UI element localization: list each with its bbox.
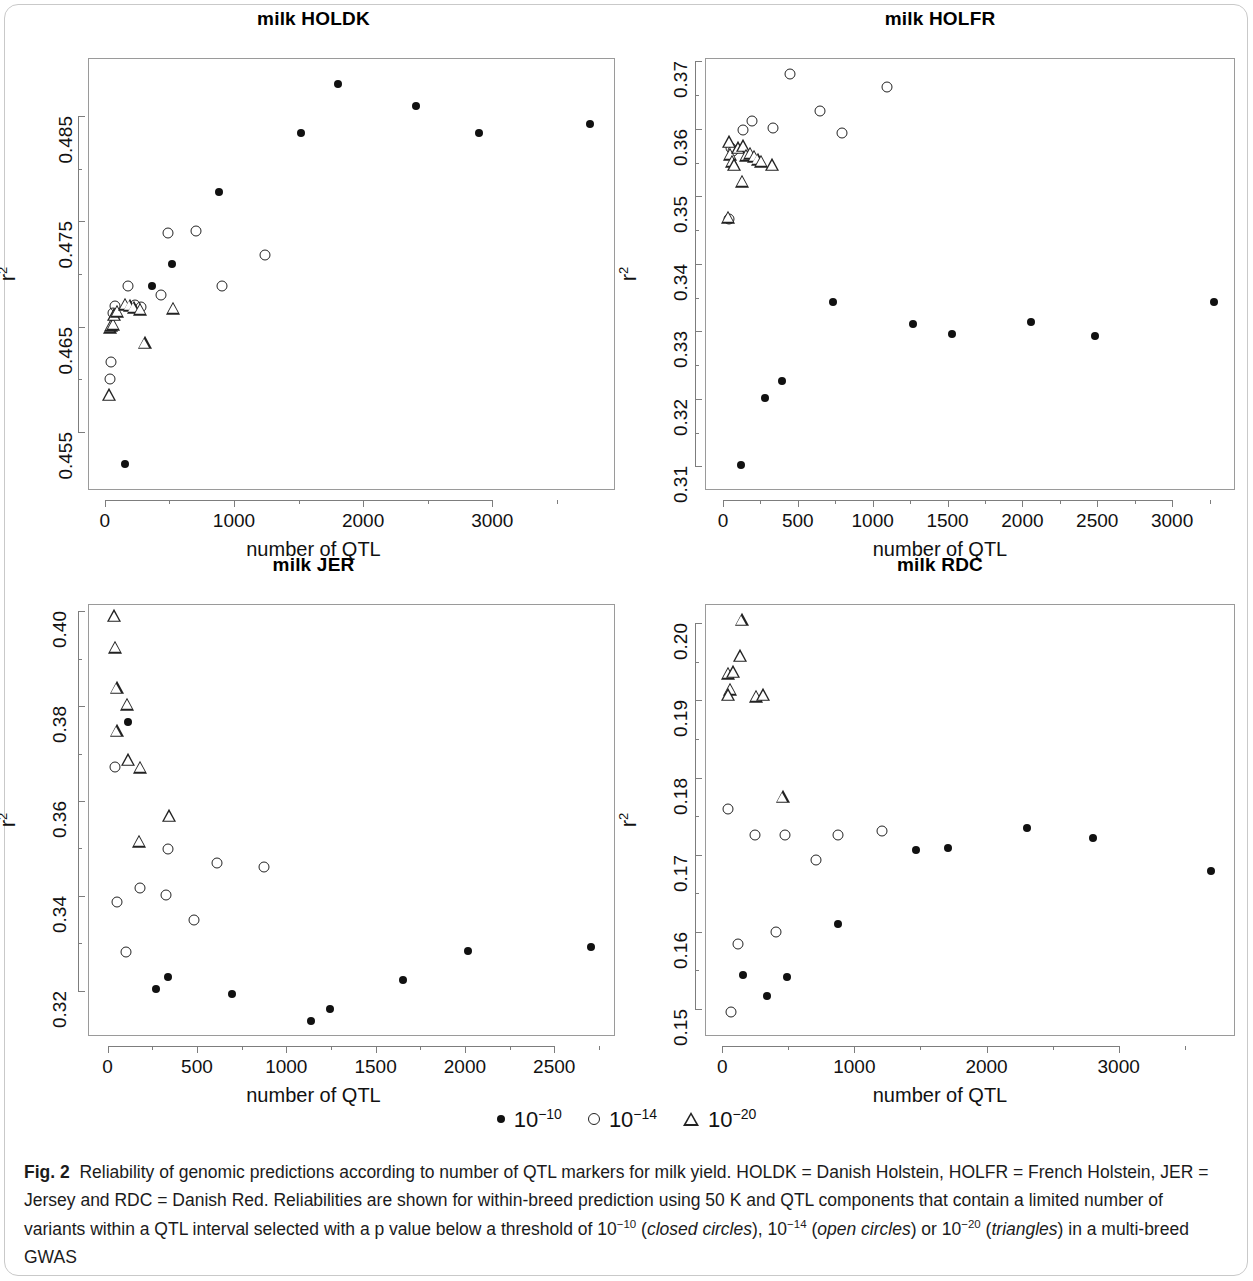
legend-symbol-closed-circle-icon <box>497 1115 505 1123</box>
data-point-jer-closed-circle-8 <box>587 943 595 951</box>
y-tick-holdk-2 <box>78 221 85 222</box>
data-point-holfr-triangle-10 <box>751 152 765 165</box>
figure-caption: Fig. 2 Reliability of genomic prediction… <box>24 1158 1228 1271</box>
x-minor-tick-rdc-0 <box>788 1046 789 1050</box>
y-tick-label-holdk-2: 0.475 <box>55 221 77 269</box>
plot-area-holfr <box>705 58 1235 490</box>
y-minor-tick-rdc-2 <box>695 816 699 817</box>
x-minor-tick-holdk-0 <box>169 500 170 504</box>
data-point-holfr-triangle-13 <box>765 158 779 171</box>
data-point-holdk-triangle-6 <box>118 297 132 310</box>
data-point-holfr-triangle-0 <box>721 210 735 223</box>
x-tick-label-rdc-3: 3000 <box>1098 1056 1140 1078</box>
y-minor-tick-rdc-4 <box>695 662 699 663</box>
x-tick-label-holfr-4: 2000 <box>1001 510 1043 532</box>
data-point-jer-closed-circle-0 <box>124 718 132 726</box>
y-tick-label-jer-0: 0.32 <box>49 991 71 1028</box>
chart-panels-container: milk HOLDK0.4550.4650.4750.4850100020003… <box>0 0 1253 1090</box>
panel-title-holfr: milk HOLFR <box>627 8 1253 30</box>
data-point-holdk-closed-circle-6 <box>412 102 420 110</box>
data-point-jer-open-circle-0 <box>109 761 120 772</box>
x-minor-tick-holdk-3 <box>557 500 558 504</box>
y-tick-holfr-3 <box>695 264 702 265</box>
y-tick-jer-2 <box>78 801 85 802</box>
x-tick-jer-5 <box>554 1046 555 1053</box>
data-point-jer-closed-circle-1 <box>152 985 160 993</box>
data-point-holfr-closed-circle-2 <box>778 377 786 385</box>
y-tick-label-rdc-5: 0.20 <box>670 623 692 660</box>
y-tick-rdc-4 <box>695 700 702 701</box>
y-tick-holdk-3 <box>78 116 85 117</box>
data-point-holfr-triangle-1 <box>722 135 736 148</box>
x-minor-tick-rdc-3 <box>1185 1046 1186 1050</box>
data-point-holfr-closed-circle-0 <box>737 461 745 469</box>
x-tick-label-holfr-3: 1500 <box>926 510 968 532</box>
y-tick-label-jer-2: 0.36 <box>49 801 71 838</box>
y-minor-tick-rdc-3 <box>695 739 699 740</box>
x-tick-label-jer-0: 0 <box>102 1056 113 1078</box>
y-minor-tick-holfr-0 <box>695 433 699 434</box>
x-tick-label-jer-4: 2000 <box>444 1056 486 1078</box>
data-point-holfr-closed-circle-3 <box>829 298 837 306</box>
data-point-holfr-open-circle-0 <box>724 213 735 224</box>
data-point-holfr-open-circle-5 <box>768 122 779 133</box>
y-axis-title-holfr: r2 <box>616 267 642 282</box>
data-point-jer-closed-circle-2 <box>164 973 172 981</box>
y-tick-jer-0 <box>78 991 85 992</box>
x-tick-holfr-1 <box>798 500 799 507</box>
data-point-rdc-closed-circle-0 <box>739 971 747 979</box>
data-point-rdc-closed-circle-7 <box>1089 834 1097 842</box>
data-point-holfr-closed-circle-7 <box>1091 332 1099 340</box>
x-tick-holdk-2 <box>363 500 364 507</box>
x-minor-tick-jer-5 <box>599 1046 600 1050</box>
data-point-holfr-triangle-3 <box>725 154 739 167</box>
data-point-rdc-open-circle-8 <box>876 826 887 837</box>
x-minor-tick-rdc-2 <box>1053 1046 1054 1050</box>
data-point-jer-open-circle-6 <box>189 915 200 926</box>
data-point-holdk-open-circle-9 <box>191 225 202 236</box>
y-minor-tick-holdk-2 <box>78 169 82 170</box>
panel-title-holdk: milk HOLDK <box>0 8 627 30</box>
data-point-holdk-open-circle-1 <box>105 357 116 368</box>
data-point-holdk-closed-circle-5 <box>334 80 342 88</box>
y-tick-label-holfr-4: 0.35 <box>670 196 692 233</box>
x-tick-rdc-1 <box>854 1046 855 1053</box>
data-point-holdk-open-circle-10 <box>217 280 228 291</box>
data-point-holdk-triangle-7 <box>123 298 137 311</box>
data-point-rdc-closed-circle-2 <box>783 973 791 981</box>
x-axis-title-rdc: number of QTL <box>627 1084 1253 1107</box>
data-point-holfr-triangle-2 <box>723 148 737 161</box>
data-point-holfr-closed-circle-4 <box>909 320 917 328</box>
x-tick-label-jer-3: 1500 <box>354 1056 396 1078</box>
x-minor-tick-jer-2 <box>331 1046 332 1050</box>
legend-item-0: 10−10 <box>497 1105 562 1133</box>
x-tick-label-holfr-1: 500 <box>782 510 814 532</box>
data-point-jer-closed-circle-7 <box>464 947 472 955</box>
y-minor-tick-jer-3 <box>78 659 82 660</box>
y-tick-holfr-4 <box>695 196 702 197</box>
data-point-jer-triangle-3 <box>120 698 134 711</box>
legend-label-2: 10−20 <box>708 1107 756 1132</box>
data-point-rdc-closed-circle-3 <box>834 920 842 928</box>
plot-area-rdc <box>705 604 1235 1036</box>
y-tick-holfr-0 <box>695 466 702 467</box>
y-minor-tick-holfr-1 <box>695 365 699 366</box>
x-tick-label-holdk-2: 2000 <box>342 510 384 532</box>
x-minor-tick-jer-1 <box>242 1046 243 1050</box>
data-point-holfr-triangle-5 <box>731 141 745 154</box>
data-point-holfr-closed-circle-5 <box>948 330 956 338</box>
y-tick-holfr-5 <box>695 129 702 130</box>
y-tick-label-holfr-2: 0.33 <box>670 331 692 368</box>
data-point-rdc-closed-circle-5 <box>944 844 952 852</box>
y-tick-label-jer-1: 0.34 <box>49 896 71 933</box>
data-point-holdk-triangle-11 <box>166 302 180 315</box>
y-minor-tick-rdc-0 <box>695 970 699 971</box>
y-minor-tick-rdc-1 <box>695 893 699 894</box>
data-point-jer-triangle-2 <box>110 681 124 694</box>
x-tick-label-holfr-2: 1000 <box>852 510 894 532</box>
y-tick-rdc-0 <box>695 1009 702 1010</box>
y-axis-title-rdc: r2 <box>616 813 642 828</box>
data-point-rdc-closed-circle-6 <box>1023 824 1031 832</box>
data-point-rdc-closed-circle-4 <box>912 846 920 854</box>
data-point-jer-triangle-5 <box>121 753 135 766</box>
